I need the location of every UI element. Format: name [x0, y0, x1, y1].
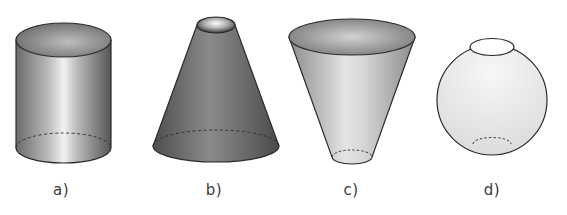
- label-b: b): [206, 181, 222, 199]
- solids-figure: [0, 0, 567, 215]
- truncated-cone-shape: [153, 17, 279, 162]
- cylinder-shape: [16, 23, 111, 163]
- label-a: a): [53, 181, 69, 199]
- inverted-truncated-cone-shape: [289, 19, 415, 164]
- sphere-shape: [437, 39, 547, 156]
- label-d: d): [484, 181, 500, 199]
- label-c: c): [343, 181, 358, 199]
